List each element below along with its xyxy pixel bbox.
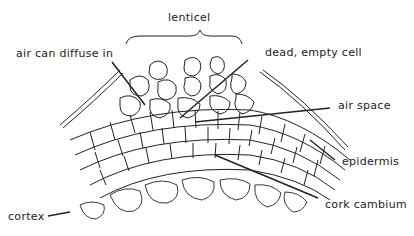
lenticel-brace bbox=[126, 30, 242, 44]
label-lenticel: lenticel bbox=[168, 11, 210, 24]
label-air-space: air space bbox=[338, 99, 391, 112]
label-air-can-diffuse-in: air can diffuse in bbox=[16, 47, 113, 60]
label-cork-cambium: cork cambium bbox=[325, 198, 407, 211]
label-dead-empty-cell: dead, empty cell bbox=[265, 46, 362, 59]
label-cortex: cortex bbox=[8, 210, 45, 223]
lenticel-diagram: lenticel air can diffuse in dead, empty … bbox=[0, 0, 414, 236]
label-epidermis: epidermis bbox=[342, 155, 399, 168]
